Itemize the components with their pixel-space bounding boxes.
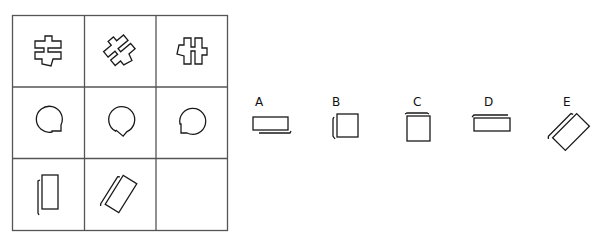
speech-bubble-figure: [180, 108, 206, 134]
option-label: D: [484, 95, 493, 109]
cross-shape-figure: [177, 38, 207, 64]
cell-r3c1: [38, 175, 58, 215]
rectangle-with-line-figure: [38, 175, 58, 215]
cell-r3c2: [100, 173, 137, 216]
rectangle-with-line-figure: [100, 173, 137, 216]
option-d[interactable]: D: [472, 95, 510, 131]
option-label: B: [332, 95, 340, 109]
speech-bubble-figure: [36, 106, 62, 132]
option-label: A: [255, 95, 264, 109]
option-label: C: [413, 95, 421, 109]
cell-r2c3: [180, 108, 206, 134]
cell-r2c2: [103, 101, 140, 138]
option-b[interactable]: B: [332, 95, 358, 139]
cross-shape-figure: [35, 36, 61, 66]
option-e[interactable]: E: [547, 95, 589, 153]
puzzle-canvas: A B C D E: [0, 0, 604, 233]
cell-r1c3: [177, 38, 207, 64]
cell-r1c1: [35, 36, 61, 66]
option-c[interactable]: C: [405, 95, 430, 141]
option-a[interactable]: A: [253, 95, 291, 133]
cross-shape-figure: [100, 31, 139, 71]
speech-bubble-figure: [103, 101, 140, 138]
cell-r1c2: [100, 31, 139, 71]
answer-options: A B C D E: [253, 95, 589, 153]
cell-r2c1: [36, 106, 62, 132]
option-label: E: [563, 95, 571, 109]
